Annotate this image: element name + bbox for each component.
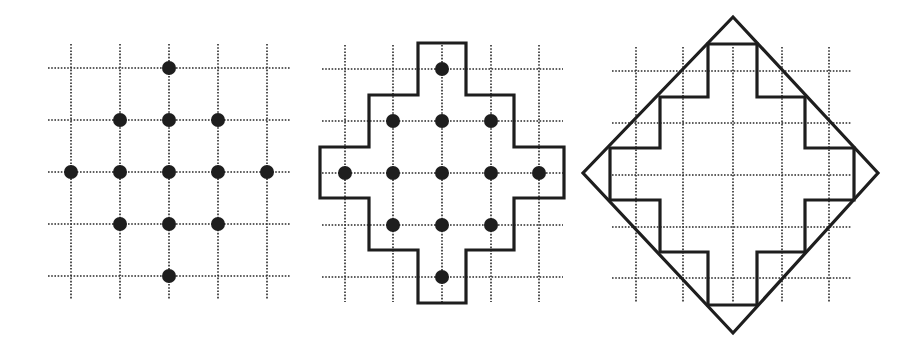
lattice-point: [386, 114, 400, 128]
lattice-point: [435, 218, 449, 232]
panel-staircase-with-diamond: [583, 17, 878, 333]
lattice-point: [484, 218, 498, 232]
lattice-point: [386, 166, 400, 180]
lattice-point: [435, 166, 449, 180]
lattice-point: [211, 113, 225, 127]
lattice-point: [484, 114, 498, 128]
lattice-point: [435, 270, 449, 284]
lattice-point: [162, 113, 176, 127]
lattice-point: [435, 114, 449, 128]
lattice-point: [211, 217, 225, 231]
lattice-point: [532, 166, 546, 180]
lattice-point: [162, 269, 176, 283]
lattice-point: [64, 165, 78, 179]
lattice-point: [162, 217, 176, 231]
lattice-point: [386, 218, 400, 232]
lattice-point: [484, 166, 498, 180]
lattice-point: [162, 61, 176, 75]
lattice-point: [260, 165, 274, 179]
lattice-point: [435, 62, 449, 76]
lattice-point: [211, 165, 225, 179]
lattice-point: [113, 165, 127, 179]
figure: [0, 0, 923, 347]
panel-lattice-points: [48, 44, 291, 300]
dotted-grid: [612, 47, 852, 303]
panel-lattice-points-with-staircase: [320, 43, 564, 303]
lattice-point: [113, 217, 127, 231]
lattice-point: [162, 165, 176, 179]
lattice-point: [338, 166, 352, 180]
lattice-point: [113, 113, 127, 127]
lattice-diagram-canvas: [0, 0, 923, 347]
